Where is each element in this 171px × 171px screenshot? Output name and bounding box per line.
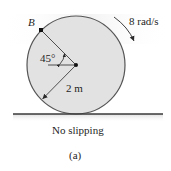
- no-slipping-caption: No slipping: [52, 124, 104, 136]
- radius-label: 2 m: [66, 82, 83, 94]
- angular-velocity-label: 8 rad/s: [129, 15, 159, 27]
- angle-label: 45°: [40, 52, 55, 64]
- point-b-label: B: [28, 16, 35, 28]
- figure-label: (a): [69, 149, 82, 162]
- ground-shadow: [13, 114, 163, 122]
- point-b-marker: [39, 28, 43, 32]
- rolling-disk-figure: B 45° 2 m 8 rad/s No slipping (a): [0, 0, 171, 171]
- diagram-canvas: B 45° 2 m 8 rad/s No slipping (a): [0, 0, 171, 171]
- center-point: [74, 63, 78, 67]
